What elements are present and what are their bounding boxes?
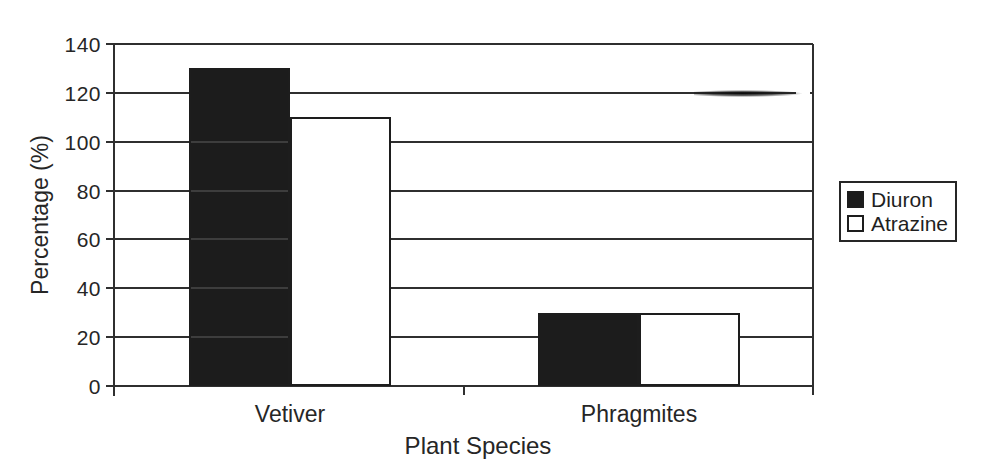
x-tick-category-divider (463, 386, 465, 395)
legend-label-diuron: Diuron (871, 189, 933, 210)
y-tick-label-0: 0 (53, 376, 101, 397)
scan-artifact-ghost-gridline-40 (191, 287, 288, 289)
bar-chart-figure: Percentage (%) Plant Species Vetiver Phr… (0, 0, 987, 474)
category-label-phragmites: Phragmites (581, 402, 697, 427)
scan-artifact-ghost-gridline-60 (191, 238, 288, 240)
legend-item-diuron: Diuron (847, 189, 949, 210)
y-tick-label-60: 60 (53, 229, 101, 250)
x-axis-title: Plant Species (405, 433, 552, 459)
legend: Diuron Atrazine (839, 181, 957, 242)
category-label-vetiver: Vetiver (255, 402, 325, 427)
y-tick-label-40: 40 (53, 278, 101, 299)
y-tick-label-100: 100 (53, 131, 101, 152)
diuron-swatch-icon (847, 191, 864, 208)
legend-label-atrazine: Atrazine (871, 213, 948, 234)
gridline-140 (115, 43, 813, 45)
scan-artifact-ghost-gridline-80 (191, 190, 288, 192)
y-axis-title: Percentage (%) (27, 135, 54, 295)
scan-artifact-ghost-gridline-20 (191, 336, 288, 338)
y-tick-label-140: 140 (53, 34, 101, 55)
scan-artifact-ghost-gridline-100 (191, 141, 288, 143)
y-tick-label-80: 80 (53, 180, 101, 201)
bar-vetiver-diuron (189, 68, 290, 386)
bar-phragmites-atrazine (639, 313, 740, 386)
bar-phragmites-diuron (538, 313, 639, 386)
y-tick-label-120: 120 (53, 82, 101, 103)
atrazine-swatch-icon (847, 215, 864, 232)
bar-vetiver-atrazine (290, 117, 391, 386)
y-tick-label-20: 20 (53, 327, 101, 348)
legend-item-atrazine: Atrazine (847, 213, 949, 234)
y-axis-line (113, 44, 115, 396)
scan-artifact-smudge (694, 90, 802, 97)
plot-right-border (812, 44, 814, 395)
